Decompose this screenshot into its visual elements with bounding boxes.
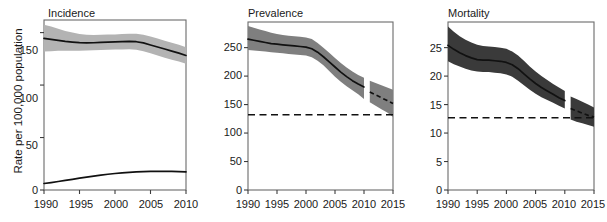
panel-mortality: Mortality 25 20 15 10 5 0 1990 1995 2000… (404, 0, 607, 222)
uncertainty-band (571, 97, 594, 127)
uncertainty-band (248, 26, 364, 99)
panel-prevalence: Prevalence 250 200 150 100 50 0 1990 199… (204, 0, 404, 222)
panel-title-mortality: Mortality (448, 8, 490, 19)
y-tick-prevalence-200: 200 (206, 70, 242, 81)
panel-incidence: Incidence 150 100 50 0 1990 1995 2000 20… (0, 0, 200, 222)
tb-burden-figure: Rate per 100,000 population Incidence 15… (0, 0, 607, 222)
y-tick-mortality-15: 15 (410, 100, 442, 111)
panel-title-incidence: Incidence (48, 8, 95, 19)
y-tick-prevalence-250: 250 (206, 42, 242, 53)
y-tick-mortality-25: 25 (410, 43, 442, 54)
y-tick-incidence-50: 50 (8, 140, 38, 151)
y-tick-prevalence-100: 100 (206, 127, 242, 138)
y-tick-prevalence-150: 150 (206, 99, 242, 110)
y-tick-incidence-150: 150 (8, 45, 38, 56)
panel-title-prevalence: Prevalence (248, 8, 303, 19)
y-tick-mortality-20: 20 (410, 71, 442, 82)
y-tick-incidence-0: 0 (8, 185, 38, 196)
y-tick-mortality-5: 5 (410, 157, 442, 168)
uncertainty-band (370, 81, 393, 117)
y-tick-incidence-100: 100 (8, 93, 38, 104)
x-tick-incidence-2010: 2010 (164, 199, 208, 210)
series-line (44, 171, 186, 183)
uncertainty-band (44, 25, 186, 64)
uncertainty-band (448, 27, 565, 109)
y-tick-prevalence-0: 0 (206, 185, 242, 196)
x-tick-mortality-2015: 2015 (572, 199, 607, 210)
y-tick-mortality-10: 10 (410, 128, 442, 139)
y-tick-prevalence-50: 50 (206, 156, 242, 167)
y-tick-mortality-0: 0 (410, 185, 442, 196)
